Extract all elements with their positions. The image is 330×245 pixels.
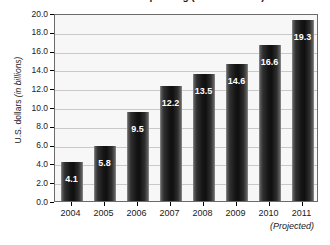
x-axis-tick-mark <box>170 202 171 206</box>
y-axis-tick-mark <box>50 164 54 165</box>
y-axis-tick-mark <box>50 52 54 53</box>
bar-value-label: 9.5 <box>127 124 149 134</box>
y-axis-tick-mark <box>50 202 54 203</box>
x-axis-tick-label: 2004 <box>54 208 87 219</box>
bar-value-label: 19.3 <box>292 32 314 42</box>
y-axis-tick-label: 20.0 <box>12 10 48 19</box>
y-axis-tick-mark <box>50 33 54 34</box>
y-axis-tick-mark <box>50 127 54 128</box>
x-axis-tick-mark <box>104 202 105 206</box>
bar-value-label: 13.5 <box>193 86 215 96</box>
y-axis-tick-label: 16.0 <box>12 47 48 56</box>
y-axis-tick-label: 4.0 <box>12 160 48 169</box>
y-axis-tick-label: 2.0 <box>12 179 48 188</box>
bar-value-label: 12.2 <box>160 98 182 108</box>
y-axis-tick-label: 14.0 <box>12 66 48 75</box>
x-axis-tick-label: 2008 <box>186 208 219 219</box>
bars-layer: 4.15.89.512.213.514.616.619.3 <box>55 15 317 201</box>
x-axis-tick-marks <box>54 202 318 207</box>
y-axis-tick-labels: 0.02.04.06.08.010.012.014.016.018.020.0 <box>12 14 48 202</box>
bar-value-label: 16.6 <box>259 57 281 67</box>
x-axis-tick-label: 2006 <box>120 208 153 219</box>
x-axis-tick-label: 2005 <box>87 208 120 219</box>
x-axis-tick-label: 2011 <box>285 208 318 219</box>
bar-value-label: 5.8 <box>94 158 116 168</box>
y-axis-tick-label: 6.0 <box>12 141 48 150</box>
y-axis-tick-mark <box>50 183 54 184</box>
y-axis-tick-mark <box>50 14 54 15</box>
bar-chart-figure: Annual spending (in U.S. dollars) U.S. d… <box>0 0 330 245</box>
x-axis-tick-label: 2010 <box>252 208 285 219</box>
chart-title: Annual spending (in U.S. dollars) <box>54 0 318 3</box>
y-axis-tick-mark <box>50 108 54 109</box>
y-axis-tick-label: 12.0 <box>12 85 48 94</box>
y-axis-tick-mark <box>50 146 54 147</box>
bar <box>94 146 116 201</box>
x-axis-tick-mark <box>302 202 303 206</box>
x-axis-tick-labels: 20042005200620072008200920102011 <box>54 208 318 220</box>
y-axis-tick-label: 0.0 <box>12 198 48 207</box>
y-axis-tick-label: 18.0 <box>12 28 48 37</box>
y-axis-tick-label: 8.0 <box>12 122 48 131</box>
bar <box>259 45 281 201</box>
x-axis-tick-label: 2007 <box>153 208 186 219</box>
plot-area: 4.15.89.512.213.514.616.619.3 <box>54 14 318 202</box>
bar-value-label: 14.6 <box>226 76 248 86</box>
y-axis-tick-mark <box>50 89 54 90</box>
bar <box>292 20 314 201</box>
x-axis-tick-mark <box>71 202 72 206</box>
x-axis-tick-label: 2009 <box>219 208 252 219</box>
projected-annotation: (Projected) <box>54 221 318 232</box>
x-axis-tick-mark <box>269 202 270 206</box>
bar-value-label: 4.1 <box>61 174 83 184</box>
x-axis-tick-mark <box>137 202 138 206</box>
y-axis-tick-label: 10.0 <box>12 104 48 113</box>
x-axis-tick-mark <box>203 202 204 206</box>
x-axis-tick-mark <box>236 202 237 206</box>
y-axis-tick-mark <box>50 70 54 71</box>
